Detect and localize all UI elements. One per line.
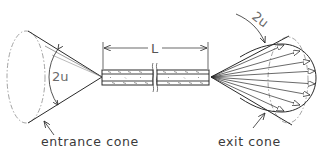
exit-ray — [211, 45, 284, 77]
entrance-cone: 2u entrance cone — [7, 31, 139, 149]
exit-angle-label: 2u — [249, 9, 271, 31]
length-label: L — [151, 41, 159, 56]
fiber-segment-right — [157, 70, 209, 85]
fiber-segment-left — [102, 70, 153, 85]
entrance-angle-label: 2u — [52, 69, 69, 84]
exit-ray — [211, 51, 300, 77]
exit-intensity-front — [240, 44, 316, 112]
exit-ray — [211, 71, 315, 77]
exit-cone-leader-arrow — [253, 113, 265, 128]
exit-ray — [211, 77, 284, 111]
exit-ray — [211, 77, 315, 84]
fiber: L — [102, 41, 209, 92]
exit-cone-caption: exit cone — [218, 134, 281, 149]
fiber-cone-diagram: 2u entrance cone L — [0, 0, 325, 152]
exit-cone: 2u exit cone — [211, 9, 316, 149]
entrance-cone-caption: entrance cone — [41, 134, 139, 149]
exit-rays — [211, 45, 315, 111]
entrance-cone-base-ellipse — [7, 31, 45, 123]
entrance-cone-leader-arrow — [44, 121, 54, 135]
